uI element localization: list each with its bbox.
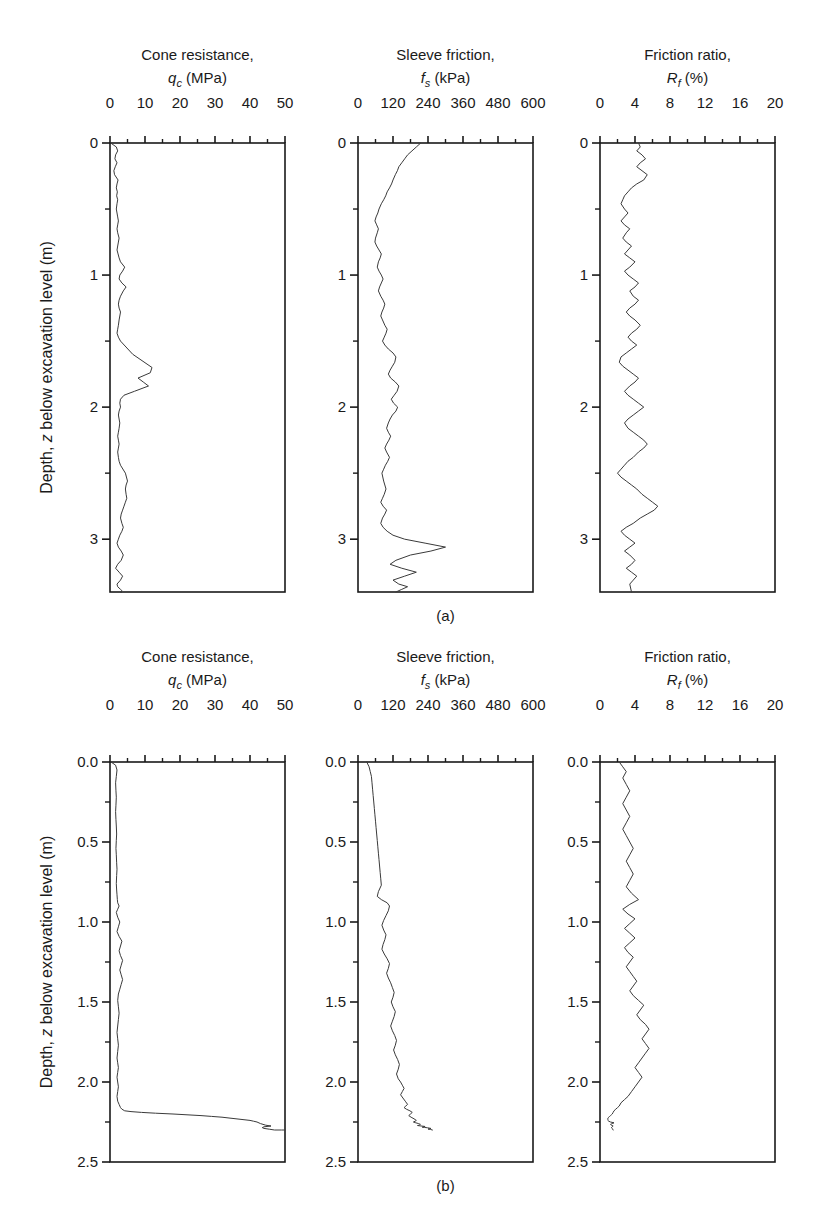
- x-tick-label: 4: [631, 94, 639, 111]
- panel-caption-b: (b): [436, 1177, 454, 1194]
- y-tick-label: 1.5: [567, 993, 588, 1010]
- x-tick-label: 4: [631, 696, 639, 713]
- y-tick-label: 3: [338, 530, 346, 547]
- y-tick-label: 1: [580, 266, 588, 283]
- figure-canvas: Cone resistance,qc (MPa)010203040500123S…: [0, 0, 816, 1228]
- y-tick-label: 1.5: [77, 993, 98, 1010]
- x-tick-label: 600: [520, 696, 545, 713]
- y-tick-label: 1.5: [325, 993, 346, 1010]
- y-tick-label: 1.0: [325, 913, 346, 930]
- plot-frame: [110, 143, 285, 592]
- data-trace-cone_resistance_a: [111, 143, 152, 592]
- x-tick-label: 50: [277, 94, 294, 111]
- x-tick-label: 480: [485, 696, 510, 713]
- y-tick-label: 2.0: [325, 1073, 346, 1090]
- y-tick-label: 3: [90, 530, 98, 547]
- x-tick-label: 16: [732, 696, 749, 713]
- y-tick-label: 2.5: [325, 1153, 346, 1170]
- subplot-title-line1: Cone resistance,: [141, 648, 254, 665]
- subplot-title-line1: Sleeve friction,: [396, 46, 494, 63]
- subplot-friction_ratio_b: Friction ratio,Rf (%)0481216200.00.51.01…: [567, 648, 783, 1170]
- x-tick-label: 30: [207, 696, 224, 713]
- data-trace-cone_resistance_b: [111, 762, 285, 1130]
- y-tick-label: 0: [580, 134, 588, 151]
- x-tick-label: 600: [520, 94, 545, 111]
- y-tick-label: 2.0: [567, 1073, 588, 1090]
- y-tick-label: 0.0: [325, 753, 346, 770]
- x-tick-label: 0: [354, 94, 362, 111]
- panel-caption-a: (a): [436, 607, 454, 624]
- x-tick-label: 360: [450, 94, 475, 111]
- y-tick-label: 2.0: [77, 1073, 98, 1090]
- x-tick-label: 240: [415, 696, 440, 713]
- x-tick-label: 8: [666, 94, 674, 111]
- x-tick-label: 16: [732, 94, 749, 111]
- y-tick-label: 3: [580, 530, 588, 547]
- x-tick-label: 360: [450, 696, 475, 713]
- plot-frame: [358, 143, 533, 592]
- y-tick-label: 0.5: [77, 833, 98, 850]
- x-tick-label: 20: [172, 94, 189, 111]
- y-tick-label: 2: [580, 398, 588, 415]
- x-tick-label: 0: [596, 94, 604, 111]
- x-tick-label: 20: [767, 696, 784, 713]
- subplot-cone_resistance_a: Cone resistance,qc (MPa)010203040500123: [90, 46, 294, 592]
- y-tick-label: 1: [338, 266, 346, 283]
- data-trace-sleeve_friction_b: [367, 762, 433, 1130]
- panel-a: Cone resistance,qc (MPa)010203040500123S…: [38, 46, 783, 624]
- y-tick-label: 2.5: [567, 1153, 588, 1170]
- y-tick-label: 2: [338, 398, 346, 415]
- subplot-title-line1: Friction ratio,: [644, 648, 731, 665]
- subplot-title-line2: Rf (%): [667, 69, 708, 89]
- cpt-profile-figure: Cone resistance,qc (MPa)010203040500123S…: [0, 0, 816, 1228]
- x-tick-label: 120: [380, 696, 405, 713]
- x-tick-label: 40: [242, 94, 259, 111]
- x-tick-label: 8: [666, 696, 674, 713]
- subplot-sleeve_friction_a: Sleeve friction,fs (kPa)0120240360480600…: [338, 46, 546, 592]
- y-axis-label: Depth, z below excavation level (m): [38, 241, 55, 494]
- subplot-title-line1: Sleeve friction,: [396, 648, 494, 665]
- subplot-title-line2: fs (kPa): [421, 671, 471, 691]
- x-tick-label: 120: [380, 94, 405, 111]
- subplot-cone_resistance_b: Cone resistance,qc (MPa)010203040500.00.…: [77, 648, 293, 1170]
- x-tick-label: 480: [485, 94, 510, 111]
- subplot-sleeve_friction_b: Sleeve friction,fs (kPa)0120240360480600…: [325, 648, 545, 1170]
- x-tick-label: 0: [106, 94, 114, 111]
- x-tick-label: 20: [172, 696, 189, 713]
- data-trace-friction_ratio_b: [608, 762, 649, 1130]
- y-tick-label: 0.5: [325, 833, 346, 850]
- subplot-title-line2: fs (kPa): [421, 69, 471, 89]
- x-tick-label: 0: [354, 696, 362, 713]
- x-tick-label: 12: [697, 94, 714, 111]
- y-tick-label: 1.0: [77, 913, 98, 930]
- y-tick-label: 2: [90, 398, 98, 415]
- subplot-title-line1: Friction ratio,: [644, 46, 731, 63]
- plot-frame: [358, 762, 533, 1162]
- y-tick-label: 0: [90, 134, 98, 151]
- subplot-title-line2: Rf (%): [667, 671, 708, 691]
- subplot-title-line2: qc (MPa): [168, 69, 227, 89]
- subplot-friction_ratio_a: Friction ratio,Rf (%)0481216200123: [580, 46, 784, 592]
- x-tick-label: 10: [137, 696, 154, 713]
- x-tick-label: 10: [137, 94, 154, 111]
- x-tick-label: 12: [697, 696, 714, 713]
- y-axis-label: Depth, z below excavation level (m): [38, 836, 55, 1089]
- x-tick-label: 20: [767, 94, 784, 111]
- data-trace-friction_ratio_a: [618, 143, 658, 592]
- panel-b: Cone resistance,qc (MPa)010203040500.00.…: [38, 648, 783, 1194]
- y-tick-label: 0.0: [77, 753, 98, 770]
- x-tick-label: 40: [242, 696, 259, 713]
- plot-frame: [110, 762, 285, 1162]
- y-tick-label: 0: [338, 134, 346, 151]
- x-tick-label: 50: [277, 696, 294, 713]
- subplot-title-line2: qc (MPa): [168, 671, 227, 691]
- x-tick-label: 0: [596, 696, 604, 713]
- y-tick-label: 2.5: [77, 1153, 98, 1170]
- y-tick-label: 1: [90, 266, 98, 283]
- x-tick-label: 30: [207, 94, 224, 111]
- y-tick-label: 0.0: [567, 753, 588, 770]
- x-tick-label: 0: [106, 696, 114, 713]
- y-tick-label: 0.5: [567, 833, 588, 850]
- data-trace-sleeve_friction_a: [375, 143, 446, 592]
- x-tick-label: 240: [415, 94, 440, 111]
